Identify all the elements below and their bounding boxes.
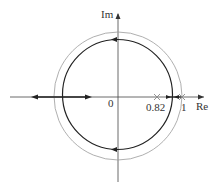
root-locus-diagram: Im Re 0 0.82 1 [0,0,217,186]
locus-arrow-left-icon [31,95,38,100]
real-axis-arrow-icon [198,95,204,100]
locus-arrow-right-icon [85,95,92,100]
locus-circle [63,40,173,150]
imag-axis-arrow-icon [116,13,121,19]
real-axis-label: Re [196,100,208,112]
locus-arrow-left-small-icon [174,95,179,99]
origin-label: 0 [108,97,114,109]
locus-arrow-top-icon [111,37,117,42]
pole-label-0-82: 0.82 [146,101,165,113]
imag-axis-label: Im [101,8,114,20]
pole-label-1: 1 [181,101,187,113]
locus-arrow-right-small-icon [166,95,171,99]
locus-arrow-bottom-icon [111,147,117,152]
